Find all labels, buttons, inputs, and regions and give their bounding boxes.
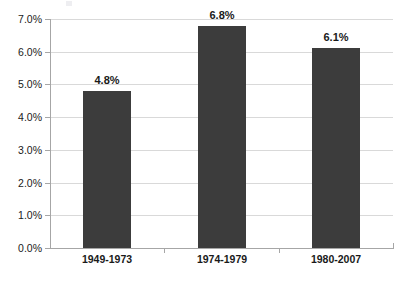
y-axis-tick-label: 2.0% xyxy=(0,177,42,188)
x-tick-mark xyxy=(279,248,280,253)
x-axis-end-tick xyxy=(50,243,51,249)
gridline-0.0% xyxy=(50,248,393,249)
x-tick-mark xyxy=(164,248,165,253)
y-axis-tick-label: 7.0% xyxy=(0,14,42,25)
bar-value-label-1974-1979: 6.8% xyxy=(182,10,262,21)
y-axis-line xyxy=(50,19,51,249)
y-axis-tick-label: 6.0% xyxy=(0,46,42,57)
scan-artifact xyxy=(66,1,72,6)
x-axis-category-label-1980-2007: 1980-2007 xyxy=(281,254,391,265)
bar-chart: 0.0%1.0%2.0%3.0%4.0%5.0%6.0%7.0% 4.8%6.8… xyxy=(0,0,405,285)
x-axis-category-label-1974-1979: 1974-1979 xyxy=(167,254,277,265)
y-axis-tick-label: 1.0% xyxy=(0,210,42,221)
y-axis-tick-label: 3.0% xyxy=(0,145,42,156)
y-axis-tick-label: 5.0% xyxy=(0,79,42,90)
x-axis-category-label-1949-1973: 1949-1973 xyxy=(52,254,162,265)
y-axis-tick-label: 4.0% xyxy=(0,112,42,123)
bar-1949-1973 xyxy=(83,91,131,248)
bar-value-label-1980-2007: 6.1% xyxy=(296,32,376,43)
bar-1974-1979 xyxy=(198,26,246,248)
bar-1980-2007 xyxy=(312,48,360,248)
x-axis-end-tick xyxy=(393,243,394,249)
bar-value-label-1949-1973: 4.8% xyxy=(67,75,147,86)
y-axis-tick-label: 0.0% xyxy=(0,243,42,254)
